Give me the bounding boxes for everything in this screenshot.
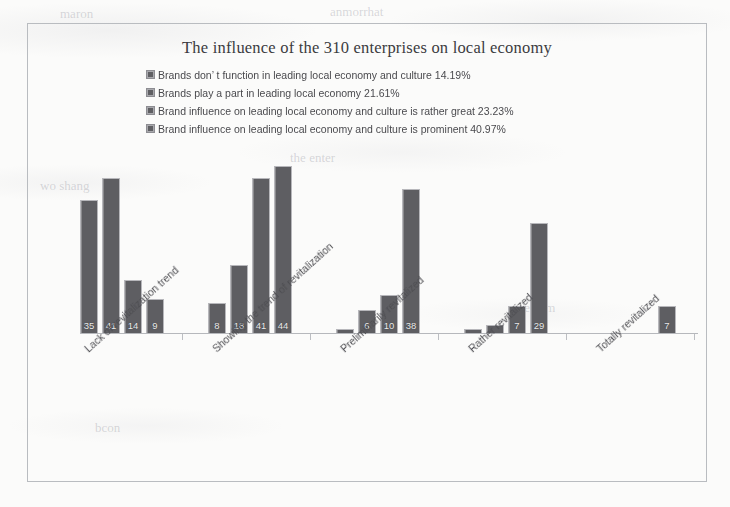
bar-cluster: 3541149 [80,151,164,333]
bar[interactable]: 9 [146,299,164,333]
x-axis-tick [310,334,311,340]
legend-item-1[interactable]: Brands play a part in leading local econ… [146,84,513,101]
bar-value-label: 7 [659,320,675,331]
bar[interactable]: 44 [274,166,292,333]
bar[interactable]: 7 [658,306,676,333]
chart-frame: The influence of the 310 enterprises on … [27,23,707,482]
bar[interactable]: 38 [402,189,420,333]
bar[interactable]: 41 [102,178,120,333]
bar-value-label: 10 [381,320,397,331]
legend-item-label: Brand influence on leading local economy… [158,105,513,117]
bleed-text-1: maron [60,6,93,22]
bleed-text-2: anmorrhat [330,4,383,20]
chart-title: The influence of the 310 enterprises on … [28,38,706,58]
bar-group: 3541149 [80,151,164,333]
bar-value-label: 38 [403,320,419,331]
legend-swatch-icon [146,106,155,115]
legend-swatch-icon [146,124,155,133]
bar-cluster: 729 [464,151,548,333]
bar-cluster: 7 [592,151,676,333]
legend-item-label: Brands don’ t function in leading local … [158,69,470,81]
bar-value-label: 8 [209,320,225,331]
chart-legend: Brands don’ t function in leading local … [146,66,513,138]
legend-item-2[interactable]: Brand influence on leading local economy… [146,102,513,119]
legend-item-3[interactable]: Brand influence on leading local economy… [146,120,513,137]
bar-value-label: 44 [275,320,291,331]
bar-value-label: 35 [81,320,97,331]
legend-item-label: Brands play a part in leading local econ… [158,87,400,99]
bar-cluster: 8184144 [208,151,292,333]
bar[interactable]: 8 [208,303,226,333]
bar[interactable]: 29 [530,223,548,333]
x-axis-tick [566,334,567,340]
legend-swatch-icon [146,88,155,97]
x-axis-tick [438,334,439,340]
legend-swatch-icon [146,70,155,79]
bar-cluster: 61038 [336,151,420,333]
bar-value-label: 9 [147,320,163,331]
bar-group: 61038 [336,151,420,333]
bar-value-label: 41 [253,320,269,331]
x-axis-tick [694,334,695,340]
bar-value-label: 14 [125,320,141,331]
bar[interactable]: 35 [80,200,98,333]
bar-group: 7 [592,151,676,333]
bar-value-label: 29 [531,320,547,331]
legend-item-0[interactable]: Brands don’ t function in leading local … [146,66,513,83]
bar-value-label: 7 [509,320,525,331]
bar-group: 8184144 [208,151,292,333]
legend-item-label: Brand influence on leading local economy… [158,123,506,135]
bar-group: 729 [464,151,548,333]
x-axis-tick [182,334,183,340]
